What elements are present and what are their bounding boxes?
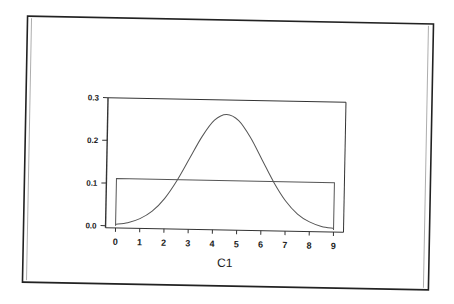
y-tick-label: 0.1	[86, 179, 98, 188]
x-tick-label: 3	[185, 238, 190, 248]
x-tick-label: 5	[234, 239, 239, 249]
x-tick-label: 9	[331, 241, 336, 251]
x-tick-label: 8	[306, 241, 311, 251]
x-tick-label: 4	[210, 239, 215, 249]
plot-right-border	[343, 102, 345, 232]
plot-top-border	[108, 98, 346, 103]
x-tick-label: 6	[258, 240, 263, 250]
y-tick-label: 0.0	[85, 221, 97, 230]
x-tick-label: 0	[113, 237, 118, 247]
x-axis-label: C1	[217, 256, 233, 270]
y-axis-line	[106, 98, 108, 228]
x-axis-line	[106, 228, 344, 233]
y-tick-label: 0.2	[87, 136, 99, 145]
outer-frame	[22, 16, 433, 290]
y-tick-label: 0.3	[88, 93, 100, 102]
x-tick-label: 2	[161, 238, 166, 248]
chart-svg: 0.00.10.20.30123456789 C1	[0, 0, 454, 304]
series-uniform-density	[116, 179, 335, 231]
chart-figure: 0.00.10.20.30123456789 C1	[0, 0, 454, 304]
x-tick-label: 1	[137, 237, 142, 247]
plot-area: 0.00.10.20.30123456789	[85, 93, 346, 251]
series-normal-density	[116, 112, 336, 228]
outer-frame-inner-right	[423, 26, 428, 288]
x-tick-label: 7	[282, 240, 287, 250]
